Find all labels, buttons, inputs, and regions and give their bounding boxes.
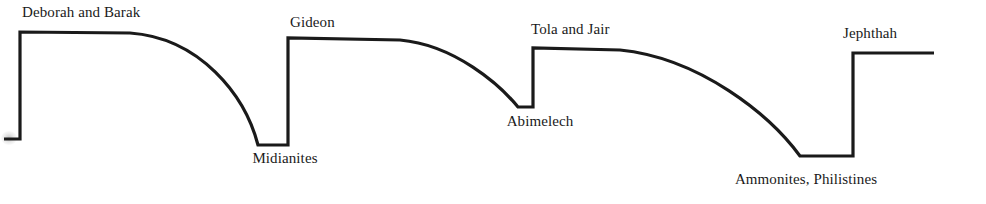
label-tola-and-jair: Tola and Jair (531, 22, 610, 37)
judges-cycle-diagram: Deborah and BarakMidianitesGideonAbimele… (0, 0, 986, 204)
label-gideon: Gideon (290, 15, 335, 30)
label-deborah-and-barak: Deborah and Barak (22, 5, 140, 20)
label-jephthah: Jephthah (843, 26, 897, 41)
cycle-waveform-path (4, 32, 934, 156)
label-midianites: Midianites (252, 151, 317, 166)
label-abimelech: Abimelech (507, 114, 574, 129)
label-ammonites-philistines: Ammonites, Philistines (735, 172, 877, 187)
